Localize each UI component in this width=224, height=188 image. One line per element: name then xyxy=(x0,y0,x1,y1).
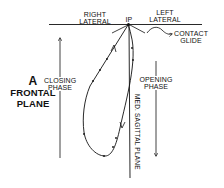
contact-glide-label: CONTACT GLIDE xyxy=(174,30,208,44)
plane-title-line-2: PLANE xyxy=(10,98,56,109)
opening-phase-line-1: OPENING xyxy=(139,76,173,83)
left-lateral-label: LEFT LATERAL xyxy=(148,9,182,23)
right-lateral-line-2: LATERAL xyxy=(78,18,112,25)
ip-label: IP xyxy=(122,16,136,23)
opening-phase-line-2: PHASE xyxy=(139,83,173,90)
panel-letter: A xyxy=(10,76,56,87)
contact-glide-line-2: GLIDE xyxy=(174,37,208,44)
plane-title-block: A FRONTAL PLANE xyxy=(10,76,56,109)
envelope-of-motion-loop xyxy=(83,25,133,156)
left-lateral-line-1: LEFT xyxy=(148,9,182,16)
right-lateral-label: RIGHT LATERAL xyxy=(78,11,112,25)
contact-glide-arrow xyxy=(147,27,172,34)
contact-glide-line-1: CONTACT xyxy=(174,30,208,37)
opening-phase-label: OPENING PHASE xyxy=(139,76,173,90)
med-sagittal-label: MED. SAGITTAL PLANE xyxy=(134,94,141,170)
left-lateral-line-2: LATERAL xyxy=(148,16,182,23)
left-lateral-stroke xyxy=(130,25,145,33)
ip-point xyxy=(127,23,130,26)
right-lateral-line-1: RIGHT xyxy=(78,11,112,18)
plane-title-line-1: FRONTAL xyxy=(10,87,56,98)
med-sagittal-line xyxy=(129,24,130,178)
